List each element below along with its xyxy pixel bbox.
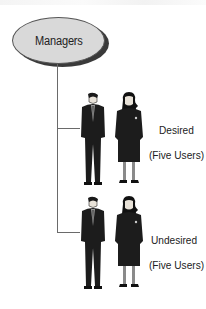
desired-label: Desired xyxy=(159,124,194,136)
desired-count-label: (Five Users) xyxy=(149,149,204,161)
node-ellipse: Managers xyxy=(12,17,105,64)
node-label: Managers xyxy=(35,34,83,48)
desired-users-group: Desired (Five Users) xyxy=(76,92,206,192)
vertical-connector xyxy=(57,64,58,233)
undesired-label: Undesired xyxy=(151,234,197,246)
man-figure-icon xyxy=(79,196,107,292)
woman-figure-icon xyxy=(113,196,145,290)
man-figure-icon xyxy=(79,92,107,188)
managers-node: Managers xyxy=(12,17,105,64)
undesired-users-group: Undesired (Five Users) xyxy=(76,196,206,296)
woman-figure-icon xyxy=(113,92,145,186)
scan-noise xyxy=(0,0,206,5)
undesired-count-label: (Five Users) xyxy=(149,259,204,271)
